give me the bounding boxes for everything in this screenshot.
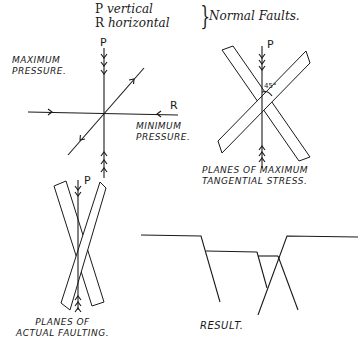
p-label: P [267, 38, 274, 51]
label-line: MINIMUM [136, 121, 190, 132]
caption-line: TANGENTIAL STRESS. [202, 176, 308, 187]
maximum-pressure-label: MAXIMUM PRESSURE. [12, 55, 66, 77]
actual-faulting-figure [54, 180, 106, 312]
angle-label: 45° [264, 82, 276, 90]
label-line: PRESSURE. [136, 132, 190, 143]
tangential-stress-caption: PLANES OF MAXIMUM TANGENTIAL STRESS. [202, 165, 308, 187]
caption-line: PLANES OF [16, 317, 109, 328]
result-caption: RESULT. [200, 320, 243, 331]
label-line: MAXIMUM [12, 55, 66, 66]
caption-line: ACTUAL FAULTING. [16, 328, 109, 339]
p-label: P [100, 36, 107, 49]
caption-line: PLANES OF MAXIMUM [202, 165, 308, 176]
tangential-stress-figure [218, 46, 310, 168]
result-figure [141, 235, 358, 315]
r-label: R [170, 99, 178, 112]
label-line: PRESSURE. [12, 66, 66, 77]
actual-faulting-caption: PLANES OF ACTUAL FAULTING. [16, 317, 109, 339]
p-label: P [84, 174, 91, 187]
minimum-pressure-label: MINIMUM PRESSURE. [136, 121, 190, 143]
